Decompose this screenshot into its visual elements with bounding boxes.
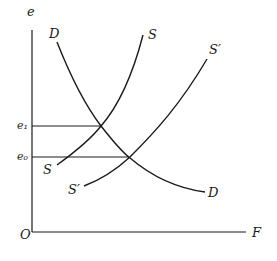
x-axis-label: F (252, 226, 261, 239)
origin-label: O (20, 228, 31, 241)
supply-s-prime-label-top: S′ (209, 43, 221, 56)
e0-label: e₀ (17, 151, 28, 162)
demand-curve-d (57, 42, 205, 192)
supply-s-prime-label-bottom: S′ (68, 183, 80, 196)
supply-s-label-bottom: S (43, 163, 52, 176)
e1-label: e₁ (17, 120, 28, 131)
y-axis-label: e (27, 5, 35, 18)
supply-curve-s-prime (84, 59, 207, 186)
supply-demand-diagram (0, 0, 277, 261)
demand-label-top: D (49, 27, 59, 40)
supply-curve-s (57, 35, 143, 165)
demand-label-bottom: D (208, 186, 218, 199)
supply-s-label-top: S (148, 28, 157, 41)
